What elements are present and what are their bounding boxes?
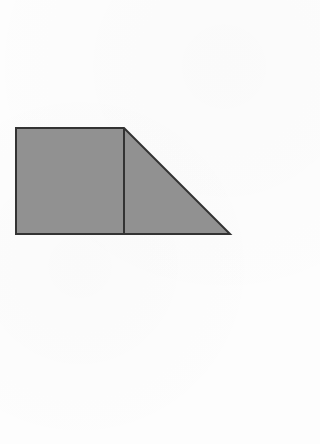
page-background	[0, 0, 320, 444]
geometric-figure	[0, 0, 320, 444]
